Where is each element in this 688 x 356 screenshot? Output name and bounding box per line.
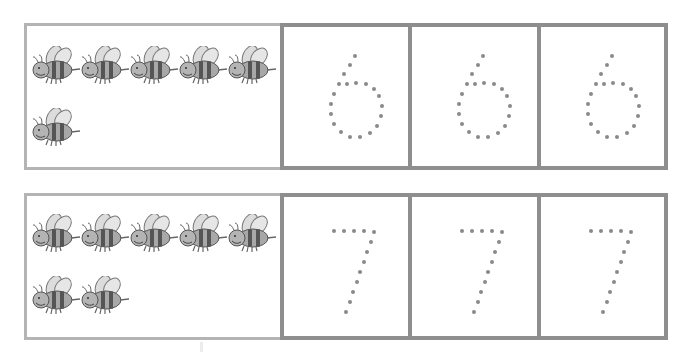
dotted-six-glyph [541,27,664,166]
bee-icon [30,276,80,314]
trace-box-seven[interactable] [280,193,412,340]
bee-icon [177,46,227,84]
bee-icon [128,214,178,252]
bee-icon [79,214,129,252]
worksheet-row-six [24,23,668,170]
bee-icon [128,46,178,84]
bee-count-box [24,23,280,170]
dotted-six-glyph [412,27,537,166]
dotted-six-glyph [284,27,408,166]
bee-icon [177,214,227,252]
trace-box-six[interactable] [408,23,541,170]
trace-box-seven[interactable] [408,193,541,340]
trace-box-six[interactable] [280,23,412,170]
trace-box-seven[interactable] [537,193,668,340]
bee-icon [79,276,129,314]
bee-icon [30,108,80,146]
bee-count-box [24,193,280,340]
bee-icon [226,214,276,252]
trace-box-six[interactable] [537,23,668,170]
worksheet-row-seven [24,193,668,340]
bee-icon [30,46,80,84]
dotted-seven-glyph [412,197,537,336]
dotted-seven-glyph [541,197,664,336]
bee-icon [79,46,129,84]
bee-icon [226,46,276,84]
scan-artifact [200,342,203,352]
bee-icon [30,214,80,252]
dotted-seven-glyph [284,197,408,336]
